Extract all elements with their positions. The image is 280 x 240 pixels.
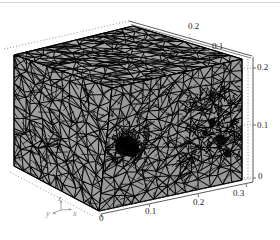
y-axis-tick-01: 0.1	[212, 42, 223, 51]
triad-y-label: y	[46, 209, 50, 218]
y-axis-tick-02: 0.2	[188, 22, 199, 31]
x-axis-tick-01: 0.1	[145, 207, 156, 216]
z-axis-tick-0: 0	[258, 172, 263, 181]
z-axis-tick-01: 0.1	[257, 121, 268, 130]
dense-mesh-spot	[209, 119, 216, 126]
axis-triad	[52, 200, 72, 214]
x-axis-tick-0: 0	[99, 214, 104, 223]
x-axis-tick-03: 0.3	[233, 189, 244, 198]
dense-mesh-spot	[202, 130, 208, 136]
triad-z-label: z	[58, 194, 61, 203]
z-axis-tick-02: 0.2	[257, 63, 268, 72]
dense-mesh-spot	[225, 151, 232, 158]
dense-mesh-spot	[216, 135, 226, 145]
x-axis-tick-02: 0.2	[193, 198, 204, 207]
mesh-plot	[0, 0, 280, 240]
figure-canvas: 0.2 0.1 0.2 0.1 0 0 0.1 0.2 0.3 y z x	[0, 0, 280, 240]
triad-x-label: x	[73, 209, 77, 218]
